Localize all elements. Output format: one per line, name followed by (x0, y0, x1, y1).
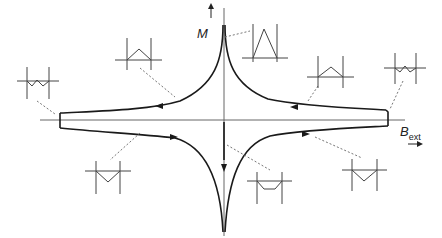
inset-lower-right (342, 159, 387, 191)
inset-lower-left (85, 161, 131, 194)
axes (40, 3, 423, 236)
arrow-right-upper-icon (290, 104, 298, 110)
inset-far-right (384, 53, 426, 84)
inset-top-peak (242, 24, 288, 62)
right-cap (386, 110, 388, 126)
lower-left-branch (60, 128, 223, 232)
x-axis-label: Bext (400, 124, 421, 142)
y-axis-label: M (197, 26, 208, 41)
inset-lower-center (247, 172, 292, 204)
inset-upper-right (307, 56, 354, 88)
inset-upper-left (115, 38, 162, 70)
lower-right-branch (225, 126, 388, 232)
hysteresis-diagram (0, 0, 442, 238)
upper-right-branch (225, 25, 386, 110)
inset-far-left (17, 67, 59, 99)
arrow-down-center-icon (221, 164, 227, 172)
arrow-left-upper-icon (155, 103, 163, 109)
direction-arrows (155, 103, 310, 172)
